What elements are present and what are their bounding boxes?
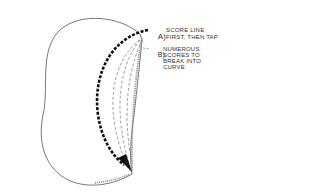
label-a: A) <box>154 28 166 40</box>
label-a-text-2: first, then tap <box>166 34 218 40</box>
score-line-b-2 <box>120 40 140 166</box>
label-b-text-4: curve <box>163 64 185 70</box>
label-a-text-1: Score line <box>166 27 204 33</box>
label-a-marker: A) <box>158 32 166 41</box>
score-line-b-1 <box>113 40 140 168</box>
score-line-a <box>97 30 148 165</box>
